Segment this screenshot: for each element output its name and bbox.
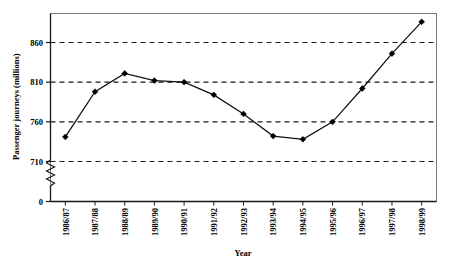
x-tick-label-1988-89: 1988/89 — [120, 208, 130, 236]
gridlines — [51, 43, 437, 162]
data-point-marker — [300, 136, 306, 142]
x-tick-label-1991-92: 1991/92 — [209, 208, 219, 236]
line-chart: 860 810 760 710 0 Passenger journeys (mi… — [0, 0, 457, 261]
y-axis-title: Passenger journeys (millions) — [11, 53, 21, 160]
y-tick-label-760: 760 — [30, 117, 43, 127]
x-axis-title: Year — [235, 248, 252, 258]
y-tick-label-zero: 0 — [39, 197, 43, 207]
plot-area-frame — [51, 14, 437, 202]
x-tick-label-1993-94: 1993/94 — [268, 207, 278, 236]
x-tick-labels: 1986/871987/881988/891989/901990/911991/… — [61, 207, 427, 236]
x-tick-label-1997-98: 1997/98 — [387, 208, 397, 236]
chart-container: 860 810 760 710 0 Passenger journeys (mi… — [0, 0, 457, 261]
x-tick-label-1996-97: 1996/97 — [357, 207, 367, 236]
y-tick-label-810: 810 — [30, 77, 43, 87]
y-tick-label-710: 710 — [30, 157, 43, 167]
x-tick-label-1987-88: 1987/88 — [90, 208, 100, 236]
data-point-marker — [181, 79, 187, 85]
x-tick-label-1989-90: 1989/90 — [150, 208, 160, 236]
x-tick-label-1995-96: 1995/96 — [328, 208, 338, 236]
x-tick-label-1998-99: 1998/99 — [417, 208, 427, 236]
x-tick-label-1990-91: 1990/91 — [179, 208, 189, 236]
data-series-markers — [62, 19, 424, 142]
x-tick-label-1992-93: 1992/93 — [239, 208, 249, 236]
x-tick-label-1994-95: 1994/95 — [298, 208, 308, 236]
y-tick-label-860: 860 — [30, 38, 43, 48]
x-tick-label-1986-87: 1986/87 — [61, 207, 71, 236]
data-point-marker — [122, 71, 128, 77]
